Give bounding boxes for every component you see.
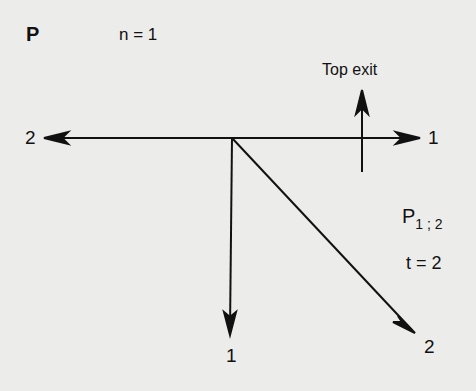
diagonal-line [232, 138, 412, 330]
vertical-line [230, 138, 232, 330]
arrow-diagram [0, 0, 476, 391]
diagonal-arrowhead-icon [393, 316, 415, 333]
